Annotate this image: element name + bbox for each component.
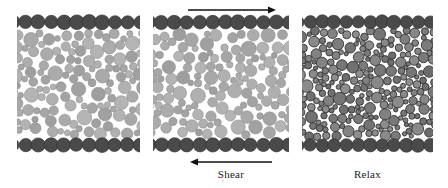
- relax-label: Relax: [302, 168, 433, 180]
- paper-speck: [222, 180, 224, 182]
- figure-root: Shear Relax: [0, 0, 448, 188]
- panel-initial-configuration: [17, 14, 140, 153]
- shear-arrow-top-glyph: [188, 5, 276, 15]
- shear-arrow-top-icon: [188, 5, 276, 15]
- shear-arrow-bottom-icon: [190, 157, 272, 167]
- panel-relaxed-configuration: [302, 14, 433, 153]
- panel-initial-canvas: [17, 14, 140, 153]
- panel-relaxed-canvas: [302, 14, 433, 153]
- panel-sheared-canvas: [153, 14, 289, 153]
- panel-sheared-configuration: [153, 14, 289, 153]
- shear-label: Shear: [180, 168, 282, 180]
- shear-arrow-bottom-glyph: [190, 157, 272, 167]
